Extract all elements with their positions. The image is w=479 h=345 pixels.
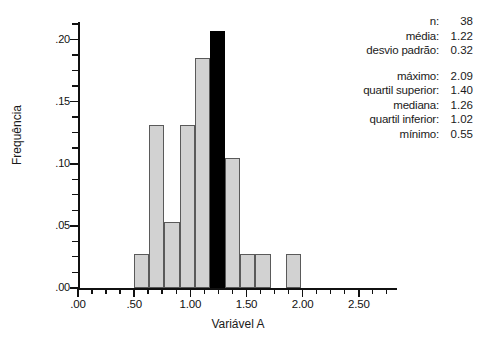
x-axis-major-tick [246,289,248,297]
statistic-label: quartil superior: [363,84,439,96]
x-axis-tick-label: 2.50 [335,298,383,310]
x-axis-major-tick [302,289,304,297]
statistic-value: 1.22 [443,29,473,44]
statistic-label: mediana: [393,99,439,111]
x-axis-minor-tick [330,289,331,294]
statistic-row: n:38 [263,14,473,29]
x-axis-major-tick [77,289,79,297]
x-axis-minor-tick [161,289,162,294]
y-axis-tick-label: .05 [38,219,70,231]
statistic-value: 0.55 [443,127,473,142]
x-axis-tick-label: 1.50 [222,298,270,310]
x-axis-major-tick [133,289,135,297]
y-axis-title: Frequência [10,75,24,195]
x-axis-major-tick [190,289,192,297]
x-axis-minor-tick [147,289,148,294]
statistic-label: desvio padrão: [366,44,439,56]
x-axis-minor-tick [218,289,219,294]
statistic-label: quartil inferior: [370,113,439,125]
x-axis-major-tick [358,289,360,297]
histogram-bar [134,254,149,288]
statistic-value: 1.26 [443,98,473,113]
statistics-panel: n:38média:1.22desvio padrão:0.32 máximo:… [263,14,473,141]
x-axis-minor-tick [372,289,373,294]
statistic-value: 1.02 [443,112,473,127]
statistic-value: 2.09 [443,69,473,84]
statistic-label: mínimo: [400,128,440,140]
histogram-bar [149,125,164,288]
histogram-bar [225,158,240,288]
y-axis-tick-label: .00 [38,281,70,293]
y-axis-tick-label: .20 [38,33,70,45]
x-axis-minor-tick [344,289,345,294]
y-axis-tick-label: .15 [38,95,70,107]
statistics-spacer [263,58,473,69]
x-axis-minor-tick [386,289,387,294]
statistic-row: desvio padrão:0.32 [263,43,473,58]
x-axis-line [78,288,397,290]
histogram-figure: Frequência .00.05.10.15.20 .00.501.001.5… [0,0,479,345]
statistics-summary-group: n:38média:1.22desvio padrão:0.32 [263,14,473,58]
x-axis-tick-label: 1.00 [166,298,214,310]
x-axis-minor-tick [288,289,289,294]
statistic-row: quartil superior:1.40 [263,83,473,98]
statistic-label: máximo: [397,70,439,82]
histogram-bar [255,254,270,288]
y-axis-tick-label: .10 [38,157,70,169]
x-axis-minor-tick [260,289,261,294]
x-axis-minor-tick [176,289,177,294]
x-axis-tick-label: .00 [54,298,102,310]
statistic-value: 38 [443,14,473,29]
statistic-row: média:1.22 [263,29,473,44]
x-axis-minor-tick [232,289,233,294]
statistic-row: mínimo:0.55 [263,127,473,142]
statistic-row: mediana:1.26 [263,98,473,113]
histogram-bar [164,222,179,288]
x-axis-minor-tick [316,289,317,294]
statistic-value: 0.32 [443,43,473,58]
histogram-bar [240,254,255,288]
statistics-quantiles-group: máximo:2.09quartil superior:1.40mediana:… [263,69,473,142]
x-axis-title: Variável A [78,317,398,331]
histogram-bar [195,58,210,288]
histogram-bar [286,254,301,288]
x-axis-minor-tick [91,289,92,294]
statistic-row: máximo:2.09 [263,69,473,84]
histogram-bar [180,125,195,288]
histogram-bar-highlighted [210,31,225,288]
x-axis-tick-label: 2.00 [279,298,327,310]
x-axis-minor-tick [119,289,120,294]
statistic-value: 1.40 [443,83,473,98]
statistic-label: média: [406,30,439,42]
x-axis-tick-label: .50 [110,298,158,310]
x-axis-minor-tick [105,289,106,294]
x-axis-minor-tick [204,289,205,294]
x-axis-minor-tick [274,289,275,294]
statistic-label: n: [430,15,439,27]
statistic-row: quartil inferior:1.02 [263,112,473,127]
